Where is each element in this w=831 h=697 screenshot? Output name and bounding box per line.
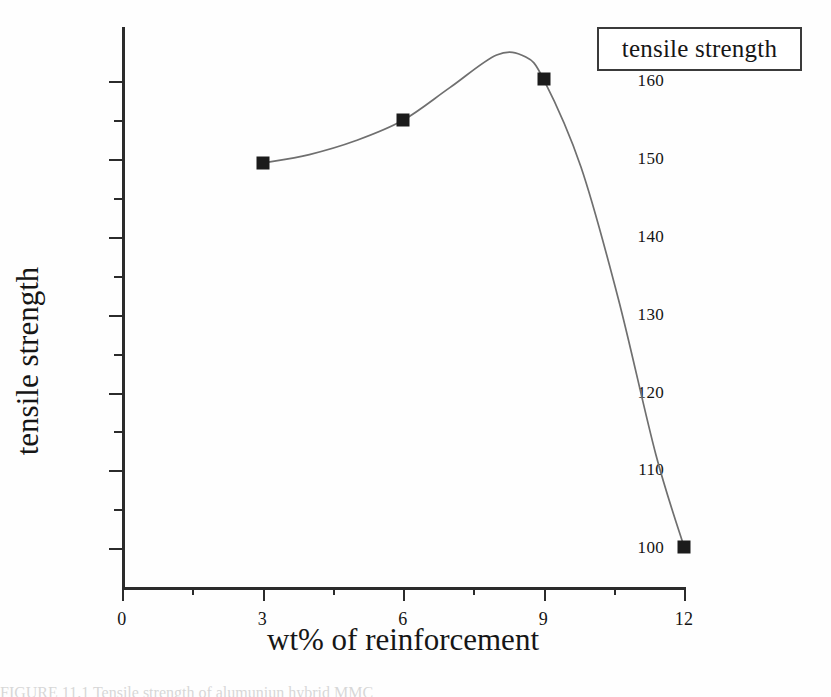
y-tick-major [109, 237, 123, 239]
y-axis-title-text: tensile strength [10, 267, 46, 456]
x-tick-major [263, 587, 265, 601]
plot-area: 100110120130140150160 036912 [122, 27, 684, 587]
series-curve [122, 27, 684, 589]
y-axis-title: tensile strength [6, 196, 50, 526]
data-point-marker [397, 114, 410, 127]
y-tick-major [109, 315, 123, 317]
data-point-marker [678, 540, 691, 553]
y-tick-major [109, 81, 123, 83]
chart-page: tensile strength tensile strength wt% of… [0, 0, 831, 697]
figure-caption: FIGURE 11.1 Tensile strength of alumuniu… [0, 684, 831, 697]
x-tick-major [544, 587, 546, 601]
data-point-marker [537, 73, 550, 86]
x-tick-label: 0 [117, 609, 126, 630]
data-point-marker [256, 157, 269, 170]
x-tick-major [122, 587, 124, 601]
y-tick-major [109, 393, 123, 395]
x-tick-label: 6 [398, 609, 407, 630]
x-tick-major [684, 587, 686, 601]
y-tick-major [109, 470, 123, 472]
x-tick-major [403, 587, 405, 601]
x-tick-label: 12 [675, 609, 694, 630]
y-tick-major [109, 159, 123, 161]
x-tick-label: 9 [539, 609, 548, 630]
y-tick-major [109, 548, 123, 550]
tensile-strength-curve [263, 52, 685, 546]
x-tick-label: 3 [258, 609, 267, 630]
